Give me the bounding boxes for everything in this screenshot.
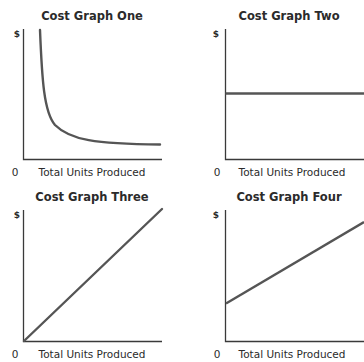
- chart-title: Cost Graph Four: [236, 190, 341, 204]
- x-axis-label: Total Units Produced: [238, 348, 346, 360]
- cost-graph-two: Cost Graph Two $ 0 Total Units Produced: [213, 9, 364, 178]
- x-axis-label: Total Units Produced: [238, 166, 346, 178]
- x-axis-label: Total Units Produced: [38, 348, 146, 360]
- y-axis-label: $: [14, 210, 20, 220]
- x-axis-label: Total Units Produced: [38, 166, 146, 178]
- chart-title: Cost Graph Two: [238, 9, 339, 23]
- chart-title: Cost Graph Three: [35, 190, 148, 204]
- origin-label: 0: [214, 166, 221, 178]
- y-axis-label: $: [213, 210, 219, 220]
- cost-graph-four: Cost Graph Four $ 0 Total Units Produced: [213, 190, 364, 360]
- cost-line: [24, 209, 162, 341]
- cost-curve: [40, 30, 160, 145]
- origin-label: 0: [12, 348, 19, 360]
- cost-graph-three: Cost Graph Three $ 0 Total Units Produce…: [12, 190, 162, 360]
- cost-graphs-figure: Cost Graph One $ 0 Total Units Produced …: [0, 0, 364, 362]
- axes: [226, 210, 364, 342]
- origin-label: 0: [214, 348, 221, 360]
- y-axis-label: $: [213, 29, 219, 39]
- cost-line: [226, 222, 364, 304]
- y-axis-label: $: [14, 29, 20, 39]
- chart-title: Cost Graph One: [41, 9, 143, 23]
- cost-graph-one: Cost Graph One $ 0 Total Units Produced: [12, 9, 162, 178]
- origin-label: 0: [12, 166, 19, 178]
